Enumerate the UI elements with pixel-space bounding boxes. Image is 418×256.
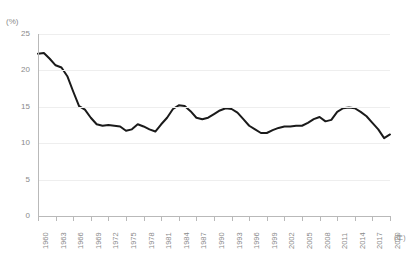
x-axis-label-2020: 2020 bbox=[393, 232, 402, 249]
gridline-25 bbox=[38, 34, 390, 35]
x-axis-label-1984: 1984 bbox=[182, 232, 191, 249]
gridline-5 bbox=[38, 180, 390, 181]
y-axis-tick-5: 5 bbox=[6, 176, 30, 184]
x-axis-label-1981: 1981 bbox=[164, 232, 173, 249]
x-axis-label-1999: 1999 bbox=[270, 232, 279, 249]
x-axis-label-1987: 1987 bbox=[199, 232, 208, 249]
chart-title bbox=[0, 0, 418, 8]
chart-container: (%) (年) 2520151050 196019631966196919721… bbox=[0, 0, 418, 256]
x-axis-label-2008: 2008 bbox=[323, 232, 332, 249]
y-axis-tick-20: 20 bbox=[6, 66, 30, 74]
data-line-series bbox=[38, 34, 390, 216]
x-axis-label-1990: 1990 bbox=[217, 232, 226, 249]
x-axis-label-1978: 1978 bbox=[147, 232, 156, 249]
gridline-20 bbox=[38, 70, 390, 71]
y-axis-line bbox=[38, 34, 39, 217]
gridline-10 bbox=[38, 143, 390, 144]
x-axis-label-1969: 1969 bbox=[94, 232, 103, 249]
y-axis-tick-10: 10 bbox=[6, 139, 30, 147]
plot-area bbox=[38, 34, 390, 216]
y-axis-tick-25: 25 bbox=[6, 30, 30, 38]
x-axis-label-1993: 1993 bbox=[235, 232, 244, 249]
x-axis-label-1963: 1963 bbox=[59, 232, 68, 249]
x-axis-label-2017: 2017 bbox=[375, 232, 384, 249]
x-axis-label-2014: 2014 bbox=[358, 232, 367, 249]
x-axis-label-2011: 2011 bbox=[340, 233, 349, 249]
x-axis-label-2005: 2005 bbox=[305, 232, 314, 249]
x-axis-label-2002: 2002 bbox=[287, 232, 296, 249]
gridline-15 bbox=[38, 107, 390, 108]
x-axis-tick-labels: 1960196319661969197219751978198119841987… bbox=[0, 221, 418, 256]
x-axis-label-1975: 1975 bbox=[129, 232, 138, 249]
x-axis-label-1960: 1960 bbox=[41, 232, 50, 249]
x-axis-label-1966: 1966 bbox=[76, 232, 85, 249]
x-axis-label-1972: 1972 bbox=[111, 232, 120, 249]
y-axis-tick-15: 15 bbox=[6, 103, 30, 111]
x-axis-label-1996: 1996 bbox=[252, 232, 261, 249]
series-line bbox=[38, 53, 390, 138]
